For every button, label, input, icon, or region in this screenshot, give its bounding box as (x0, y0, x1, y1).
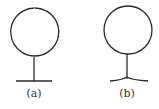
figure-a-label: (a) (26, 87, 41, 100)
figure-a (11, 8, 59, 81)
diagram-canvas: (a) (b) (0, 0, 159, 109)
figure-b-circle (104, 6, 152, 54)
figure-a-circle (11, 8, 59, 56)
figure-b-base (110, 77, 148, 81)
figure-b-label: (b) (119, 87, 135, 100)
figure-b (104, 6, 152, 81)
